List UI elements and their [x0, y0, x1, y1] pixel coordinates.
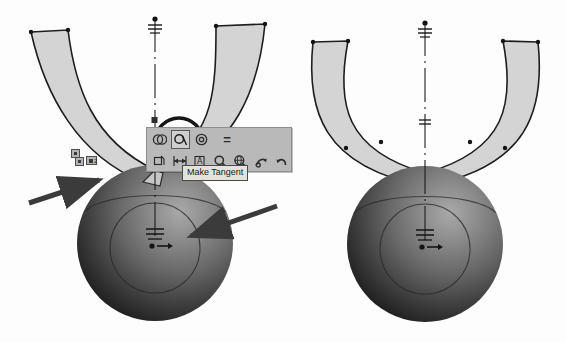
sketch-point[interactable] — [501, 39, 505, 43]
equal-button[interactable]: = — [213, 130, 235, 149]
sketch-point[interactable] — [536, 40, 540, 44]
sketch-point[interactable] — [29, 30, 33, 34]
right-arm-right — [426, 41, 539, 186]
figure-right — [311, 20, 540, 322]
origin-point[interactable] — [152, 16, 157, 21]
constraint-badge-count: 2 — [94, 158, 97, 164]
sketch-point[interactable] — [344, 146, 348, 150]
tooltip-make-tangent: Make Tangent — [182, 165, 248, 181]
undo-arrow-icon — [274, 154, 289, 169]
sketch-point[interactable] — [468, 140, 472, 144]
sketch-point[interactable] — [346, 39, 350, 43]
rotate-icon — [254, 154, 269, 169]
sketch-point[interactable] — [503, 146, 507, 150]
equal-icon: = — [223, 133, 231, 146]
viewport-stage: 2 — [0, 0, 566, 343]
undo-button[interactable] — [273, 152, 291, 171]
concentric-icon — [194, 132, 209, 147]
midpoint-marker[interactable] — [152, 117, 158, 123]
fix-button[interactable] — [150, 152, 168, 171]
sketch-point[interactable] — [311, 40, 315, 44]
tangent-icon — [173, 132, 188, 147]
sketch-point[interactable] — [379, 140, 383, 144]
coincident-button[interactable] — [150, 130, 169, 149]
origin-point[interactable] — [422, 20, 427, 25]
concentric-button[interactable] — [192, 130, 211, 149]
sphere-center-point[interactable] — [419, 244, 424, 249]
sphere-center-point[interactable] — [149, 243, 154, 248]
rotate-button[interactable] — [252, 152, 270, 171]
constraint-badge-coincident[interactable] — [75, 157, 84, 166]
right-arm-left — [312, 41, 425, 186]
toolbar-row-1: = — [147, 128, 291, 150]
fix-icon — [152, 154, 166, 168]
coincident-icon — [152, 132, 167, 147]
arrow-left-pointer — [29, 180, 99, 203]
tangent-button[interactable] — [171, 130, 190, 149]
sketch-point[interactable] — [214, 24, 218, 28]
sketch-point[interactable] — [263, 22, 267, 26]
sketch-point[interactable] — [66, 28, 70, 32]
